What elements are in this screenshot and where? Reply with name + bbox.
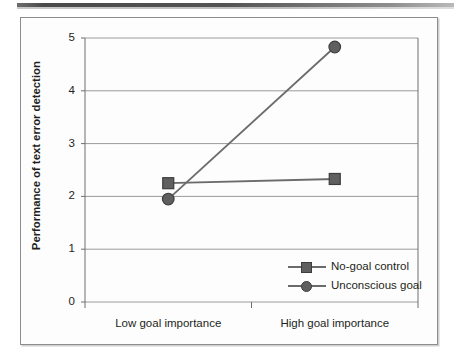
y-axis-title: Performance of text error detection xyxy=(31,56,42,256)
y-tick-label: 0 xyxy=(55,296,75,308)
y-tick-label: 3 xyxy=(55,138,75,150)
legend-item-no-goal-control: No-goal control xyxy=(288,257,438,276)
chart-text-layer: Performance of text error detection 0123… xyxy=(0,0,454,356)
legend-marker-circle-icon xyxy=(288,279,326,293)
legend-label: Unconscious goal xyxy=(331,280,422,292)
y-tick-label: 1 xyxy=(55,243,75,255)
legend-item-unconscious-goal: Unconscious goal xyxy=(288,276,438,295)
x-tick-label: High goal importance xyxy=(255,318,415,330)
y-tick-label: 4 xyxy=(55,85,75,97)
chart-legend: No-goal control Unconscious goal xyxy=(288,257,438,295)
y-tick-label: 2 xyxy=(55,190,75,202)
legend-label: No-goal control xyxy=(331,261,409,273)
y-tick-label: 5 xyxy=(55,32,75,44)
legend-marker-square-icon xyxy=(288,260,326,274)
x-tick-label: Low goal importance xyxy=(88,318,248,330)
